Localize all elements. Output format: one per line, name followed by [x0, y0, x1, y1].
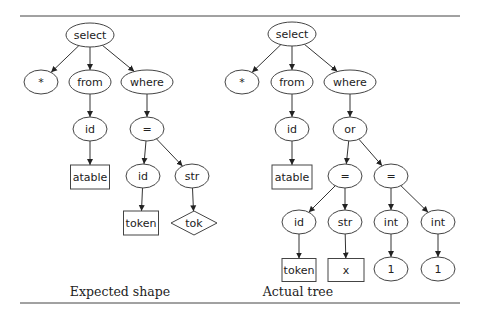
tree-node-r_eq2: =: [374, 164, 408, 188]
node-label: where: [130, 76, 164, 89]
tree-comparison-figure: select*fromwhereid=atableidstrtokentokse…: [0, 0, 477, 321]
edge-r_str-to-r_x: [345, 234, 346, 259]
node-label: int: [384, 216, 399, 229]
tree-node-r_id2: id: [282, 210, 316, 234]
node-label: =: [340, 170, 349, 183]
tree-node-r_or: or: [333, 117, 367, 141]
node-label: id: [138, 170, 148, 183]
tree-node-l_eq: =: [130, 117, 164, 141]
node-label: id: [294, 216, 304, 229]
node-label: where: [333, 76, 367, 89]
tree-node-r_star: *: [225, 70, 259, 94]
tree-node-l_tok: tok: [171, 211, 217, 235]
tree-node-r_atable: atable: [272, 165, 312, 189]
tree-node-l_str: str: [175, 164, 209, 188]
edge-l_str-to-l_tok: [193, 188, 194, 211]
tree-node-r_where: where: [324, 70, 376, 94]
edge-l_select-to-l_where: [102, 45, 134, 71]
nodes-layer: select*fromwhereid=atableidstrtokentokse…: [24, 22, 455, 282]
node-label: select: [74, 29, 107, 42]
caption-expected-shape: Expected shape: [70, 284, 170, 299]
tree-node-l_select: select: [66, 23, 114, 47]
node-label: or: [344, 123, 356, 136]
node-label: str: [338, 216, 353, 229]
tree-node-r_int2: int: [421, 210, 455, 234]
node-label: 1: [435, 263, 442, 276]
node-label: 1: [388, 263, 395, 276]
tree-node-r_eq1: =: [328, 164, 362, 188]
tree-node-l_where: where: [121, 70, 173, 94]
tree-node-r_x: x: [328, 259, 364, 282]
edge-l_select-to-l_star: [51, 46, 79, 73]
edge-r_select-to-r_where: [304, 44, 337, 71]
node-label: id: [287, 123, 297, 136]
edge-r_or-to-r_eq2: [359, 139, 382, 166]
node-label: x: [343, 264, 350, 277]
node-label: from: [77, 76, 103, 89]
caption-actual-tree: Actual tree: [262, 284, 333, 299]
edge-r_eq2-to-r_int2: [401, 186, 428, 213]
node-label: token: [284, 264, 315, 277]
tree-node-l_from: from: [69, 70, 111, 94]
node-label: tok: [185, 217, 203, 230]
tree-node-l_id: id: [73, 117, 107, 141]
node-label: int: [431, 216, 446, 229]
tree-node-l_star: *: [24, 70, 58, 94]
node-label: atable: [275, 171, 310, 184]
tree-node-r_from: from: [271, 70, 313, 94]
edge-r_or-to-r_eq1: [346, 141, 348, 164]
tree-node-r_one1: 1: [374, 257, 408, 281]
edge-r_eq1-to-r_id2: [309, 186, 335, 212]
tree-node-r_token: token: [282, 259, 316, 282]
tree-node-l_token: token: [124, 211, 159, 235]
edge-r_select-to-r_star: [252, 45, 281, 73]
tree-node-r_int1: int: [374, 210, 408, 234]
edge-l_id2-to-l_token: [142, 188, 143, 211]
tree-node-l_id2: id: [126, 164, 160, 188]
tree-node-r_id: id: [275, 117, 309, 141]
node-label: *: [239, 76, 245, 89]
tree-node-r_str: str: [328, 210, 362, 234]
node-label: id: [85, 123, 95, 136]
node-label: atable: [73, 171, 108, 184]
node-label: *: [38, 76, 44, 89]
tree-node-l_atable: atable: [71, 165, 110, 189]
tree-node-r_one2: 1: [421, 257, 455, 281]
edge-l_eq-to-l_id2: [144, 141, 146, 164]
tree-node-r_select: select: [268, 22, 316, 46]
node-label: =: [142, 123, 151, 136]
edge-l_eq-to-l_str: [157, 139, 183, 166]
node-label: from: [279, 76, 305, 89]
node-label: str: [185, 170, 200, 183]
node-label: select: [276, 28, 309, 41]
node-label: token: [126, 217, 157, 230]
node-label: =: [386, 170, 395, 183]
